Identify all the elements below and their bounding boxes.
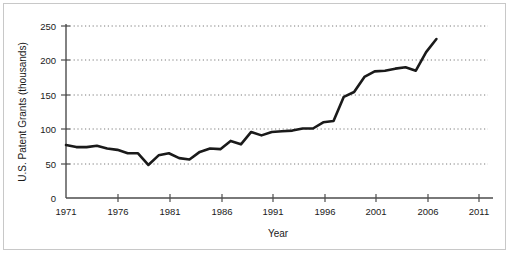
x-tick-label-2006: 2006 xyxy=(417,206,438,217)
line-chart: 250 200 150 100 50 0 1971 1976 1981 1986… xyxy=(0,0,509,253)
x-tick-label-1971: 1971 xyxy=(55,206,76,217)
x-axis-title: Year xyxy=(268,228,289,239)
y-tick-label-50: 50 xyxy=(45,159,56,170)
y-tick-label-0: 0 xyxy=(51,193,56,204)
x-tick-label-1986: 1986 xyxy=(211,206,232,217)
y-tick-label-200: 200 xyxy=(40,55,56,66)
x-tick-label-1981: 1981 xyxy=(159,206,180,217)
x-tick-label-1991: 1991 xyxy=(262,206,283,217)
chart-figure: 250 200 150 100 50 0 1971 1976 1981 1986… xyxy=(0,0,509,253)
x-tick-label-1976: 1976 xyxy=(107,206,128,217)
gridlines xyxy=(66,26,488,164)
y-axis-title: U.S. Patent Grants (thousands) xyxy=(17,42,28,182)
y-tick-label-100: 100 xyxy=(40,124,56,135)
y-tick-label-150: 150 xyxy=(40,90,56,101)
x-tick-label-2011: 2011 xyxy=(469,206,489,217)
data-series-line xyxy=(66,39,436,165)
y-tick-label-250: 250 xyxy=(40,21,56,32)
x-tick-label-1996: 1996 xyxy=(314,206,335,217)
x-tick-label-2001: 2001 xyxy=(365,206,386,217)
